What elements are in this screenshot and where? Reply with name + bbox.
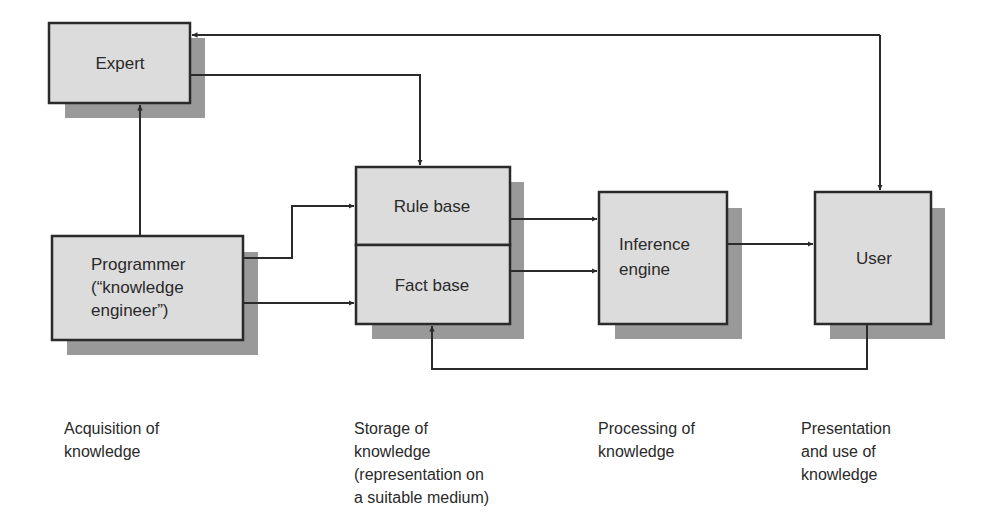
- programmer-label-line-2: (“knowledge: [91, 278, 184, 297]
- edge-programmer-to-rule-base: [243, 206, 354, 258]
- caption-storage: Storage of knowledge (representation on …: [354, 417, 489, 509]
- node-programmer: Programmer (“knowledge engineer”): [52, 236, 258, 355]
- programmer-label-line-1: Programmer: [91, 255, 186, 274]
- programmer-label-line-3: engineer”): [91, 301, 169, 320]
- inference-engine-label-line-1: Inference: [619, 235, 690, 254]
- rule-base-label: Rule base: [394, 197, 471, 216]
- caption-presentation: Presentation and use of knowledge: [801, 417, 891, 486]
- node-knowledge-base: Rule base Fact base: [356, 167, 524, 339]
- expert-label: Expert: [95, 54, 144, 73]
- node-expert: Expert: [49, 23, 205, 118]
- user-label: User: [856, 249, 892, 268]
- caption-processing: Processing of knowledge: [598, 417, 695, 463]
- caption-acquisition: Acquisition of knowledge: [64, 417, 159, 463]
- inference-engine-label-line-2: engine: [619, 260, 670, 279]
- node-user: User: [815, 192, 945, 339]
- edge-expert-to-rule-base: [190, 75, 420, 165]
- fact-base-label: Fact base: [395, 276, 470, 295]
- node-inference-engine: Inference engine: [599, 192, 742, 339]
- inference-engine-box: [599, 192, 727, 324]
